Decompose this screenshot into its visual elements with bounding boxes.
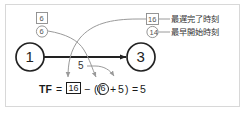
node-end-label: 3 — [137, 49, 145, 64]
end-earliest-start-value: 14 — [150, 29, 158, 37]
legend-label-latest-finish: 最遅完了時刻 — [171, 15, 219, 23]
formula-equals-1: = — [56, 84, 62, 95]
formula-tf-label: TF — [39, 84, 52, 95]
formula-earliest-start-value: 6 — [101, 84, 106, 93]
formula-equals-2: = — [132, 84, 138, 95]
formula-plus: + — [110, 84, 116, 95]
formula-minus: − — [84, 84, 90, 95]
activity-duration-label: 5 — [78, 61, 84, 71]
pointer-curve-earliest-start — [48, 31, 96, 77]
formula-latest-finish-value: 16 — [69, 84, 79, 93]
formula-close-paren: ) — [125, 84, 129, 95]
formula-result: 5 — [140, 84, 146, 95]
legend-label-earliest-start: 最早開始時刻 — [171, 28, 219, 36]
start-earliest-start-value: 6 — [40, 28, 44, 36]
diagram-canvas: 1 3 6 6 16 14 最遅完了時刻 最早開始時刻 5 TF = 16 − … — [0, 0, 247, 113]
pointer-curve-duration — [95, 66, 114, 76]
formula-duration: 5 — [118, 84, 124, 95]
end-latest-finish-value: 16 — [148, 16, 156, 24]
start-latest-finish-value: 6 — [40, 15, 44, 23]
node-start-label: 1 — [26, 49, 34, 64]
